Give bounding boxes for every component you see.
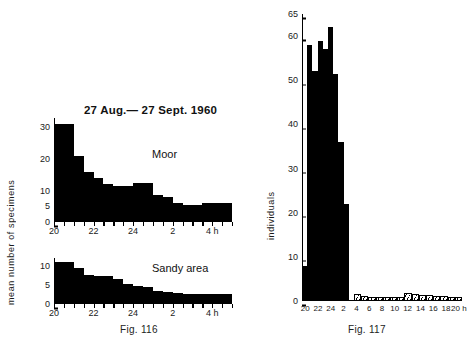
bar	[163, 197, 173, 222]
bar	[103, 276, 113, 304]
bar	[183, 294, 193, 304]
y-tick-label: 10	[40, 261, 54, 270]
bar	[173, 203, 183, 222]
bar	[103, 184, 113, 222]
x-tick-label: 24	[128, 222, 138, 236]
y-tick-mark	[54, 210, 58, 211]
x-tick-label: 22	[89, 222, 99, 236]
y-tick-label: 60	[288, 32, 302, 41]
bar	[163, 292, 173, 304]
bar	[344, 204, 349, 301]
bar	[212, 294, 222, 304]
bar	[212, 203, 222, 222]
bar	[202, 203, 212, 222]
bar	[354, 294, 361, 301]
x-tick-mark	[192, 304, 193, 308]
x-tick-label: 8	[380, 301, 384, 313]
x-tick-label: 22	[89, 304, 99, 318]
x-tick-label: 22	[314, 301, 323, 313]
x-tick-mark	[143, 304, 144, 308]
x-tick-mark	[183, 222, 184, 226]
bar	[64, 124, 74, 222]
x-tick-mark	[232, 222, 233, 226]
bar	[94, 276, 104, 304]
x-tick-mark	[222, 304, 223, 308]
x-tick-mark	[84, 304, 85, 308]
x-tick-mark	[64, 304, 65, 308]
x-tick-mark	[123, 304, 124, 308]
bar	[192, 205, 202, 222]
x-tick-mark	[64, 222, 65, 226]
x-tick-mark	[143, 222, 144, 226]
y-tick-label: 20	[40, 154, 54, 163]
x-tick-label: 4 h	[206, 222, 219, 236]
x-tick-label: 18	[442, 301, 451, 313]
bar	[74, 268, 84, 304]
bar	[133, 286, 143, 304]
bar	[113, 279, 123, 304]
figure-116: 27 Aug.— 27 Sept. 1960 mean number of sp…	[0, 0, 256, 350]
x-tick-label: 24	[128, 304, 138, 318]
y-tick-mark	[54, 163, 58, 164]
y-tick-mark	[54, 194, 58, 195]
x-tick-label: 2	[170, 222, 175, 236]
bar	[183, 205, 193, 222]
y-tick-mark	[302, 18, 306, 19]
y-tick-mark	[302, 40, 306, 41]
bar	[192, 294, 202, 304]
x-tick-mark	[232, 304, 233, 308]
x-tick-mark	[153, 222, 154, 226]
y-tick-label: 20	[288, 208, 302, 217]
y-tick-mark	[302, 217, 306, 218]
bar	[123, 284, 133, 304]
x-tick-label: 20 h	[451, 301, 467, 313]
x-tick-label: 20	[301, 301, 310, 313]
x-tick-label: 4 h	[206, 304, 219, 318]
x-tick-label: 4	[354, 301, 358, 313]
bar	[222, 294, 232, 304]
y-tick-label: 30	[288, 164, 302, 173]
bar-series-individuals	[302, 14, 462, 301]
y-tick-mark	[54, 269, 58, 270]
y-tick-label: 65	[288, 10, 302, 19]
y-tick-mark	[54, 131, 58, 132]
x-tick-label: 24	[326, 301, 335, 313]
y-tick-mark	[302, 172, 306, 173]
x-tick-mark	[202, 304, 203, 308]
fig117-y-axis-label: individuals	[266, 130, 276, 240]
y-tick-label: 10	[288, 252, 302, 261]
bar	[64, 262, 74, 304]
y-tick-mark	[302, 261, 306, 262]
x-tick-label: 2	[170, 304, 175, 318]
bar	[143, 183, 153, 222]
fig116-title: 27 Aug.— 27 Sept. 1960	[84, 104, 217, 116]
y-tick-mark	[302, 128, 306, 129]
x-tick-mark	[192, 222, 193, 226]
bar	[94, 178, 104, 222]
bar	[74, 156, 84, 222]
bar	[202, 294, 212, 304]
x-tick-label: 16	[429, 301, 438, 313]
x-tick-mark	[202, 222, 203, 226]
bar	[173, 293, 183, 304]
x-tick-label: 12	[403, 301, 412, 313]
bar	[222, 203, 232, 222]
bar	[84, 275, 94, 304]
bar	[123, 186, 133, 222]
x-tick-mark	[163, 222, 164, 226]
bar	[404, 293, 411, 301]
x-tick-label: 14	[416, 301, 425, 313]
fig116-moor-annotation: Moor	[152, 148, 177, 160]
x-tick-mark	[113, 304, 114, 308]
x-tick-label: 2	[341, 301, 345, 313]
x-tick-mark	[183, 304, 184, 308]
bar	[412, 294, 419, 301]
bar	[143, 287, 153, 304]
y-tick-label: 5	[45, 280, 54, 289]
x-tick-label: 6	[367, 301, 371, 313]
x-tick-mark	[123, 222, 124, 226]
x-tick-mark	[103, 222, 104, 226]
bar	[113, 186, 123, 222]
fig117-caption: Fig. 117	[348, 324, 386, 335]
y-tick-mark	[54, 289, 58, 290]
